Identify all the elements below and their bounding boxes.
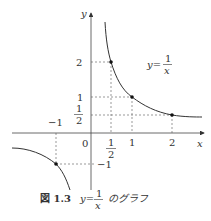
y-axis-label: y [80, 8, 87, 19]
curve-negative-branch [12, 148, 70, 190]
graph-figure: y x 0 2 1 1 2 −1 −1 1 2 1 2 y= 1 x 図 1.3… [0, 0, 211, 221]
y-tick-half-den: 2 [76, 115, 82, 126]
x-tick-1: 1 [129, 137, 135, 148]
origin-label: 0 [82, 138, 88, 149]
x-tick-2: 2 [169, 137, 175, 148]
caption-suffix: のグラフ [108, 193, 149, 204]
x-tick-half-den: 2 [108, 149, 114, 160]
caption-eq: y= [79, 193, 94, 204]
caption-prefix: 図 1.3 [40, 193, 71, 204]
caption-num: 1 [96, 188, 102, 199]
x-tick-half-num: 1 [108, 137, 114, 148]
curve-label-num: 1 [165, 53, 171, 64]
y-tick-neg1: −1 [97, 159, 112, 170]
y-tick-1: 1 [77, 92, 83, 103]
x-tick-neg1: −1 [48, 117, 63, 128]
caption-den: x [95, 200, 101, 211]
x-axis-label: x [197, 138, 203, 149]
y-tick-2: 2 [76, 57, 82, 68]
y-tick-half-num: 1 [76, 103, 82, 114]
curve-label-den: x [164, 65, 170, 76]
curve-label-y: y= [146, 59, 161, 70]
